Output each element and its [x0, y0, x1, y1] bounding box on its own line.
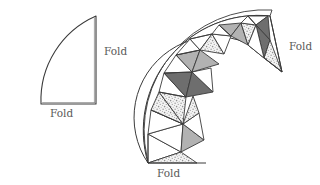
- band-lower-fold-label: Fold: [157, 167, 180, 179]
- band-upper-fold-label: Fold: [289, 40, 312, 52]
- left-bottom-fold-label: Fold: [50, 107, 73, 119]
- fold-pattern-figure: Fold Fold: [0, 0, 320, 185]
- left-right-fold-label: Fold: [104, 45, 127, 57]
